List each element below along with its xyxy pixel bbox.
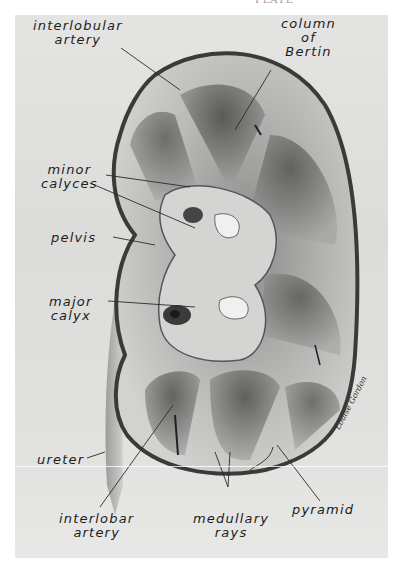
label-interlobar-artery: interlobar artery xyxy=(59,512,134,540)
label-pyramid: pyramid xyxy=(292,503,354,517)
label-medullary-rays: medullary rays xyxy=(193,512,269,540)
label-interlobular-artery: interlobular artery xyxy=(33,19,123,47)
running-head: PLATE xyxy=(255,0,335,6)
kidney-illustration xyxy=(15,15,388,558)
label-major-calyx: major calyx xyxy=(49,295,93,323)
renal-sinus xyxy=(159,186,277,361)
label-ureter: ureter xyxy=(37,453,84,467)
anatomical-plate: interlobular artery column of Bertin min… xyxy=(15,15,388,558)
label-column-of-bertin: column of Bertin xyxy=(281,17,336,59)
label-pelvis: pelvis xyxy=(51,231,96,245)
minor-calyx-opening xyxy=(183,207,203,223)
label-minor-calyces: minor calyces xyxy=(41,163,98,191)
scan-crease xyxy=(15,466,388,467)
